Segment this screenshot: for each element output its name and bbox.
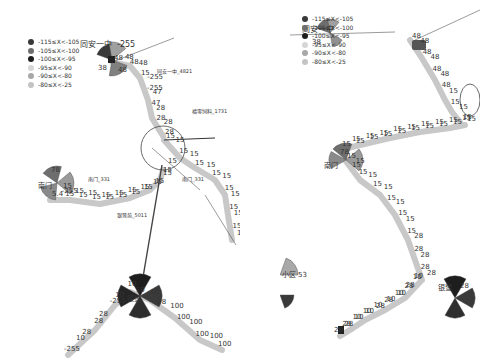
route-top[interactable] bbox=[410, 40, 460, 122]
site-label: 小区 bbox=[282, 270, 296, 279]
route-value: 15 bbox=[166, 132, 175, 140]
legend-label: -80≤X<-25 bbox=[38, 81, 72, 90]
route-value: 15 bbox=[359, 168, 368, 176]
legend-label: -105≤X<-100 bbox=[312, 24, 353, 33]
route-value: 48 bbox=[420, 37, 429, 45]
legend-item: -100≤X<-95 bbox=[302, 32, 353, 41]
legend-item: -90≤X<-80 bbox=[28, 72, 79, 81]
route-value: 28 bbox=[334, 326, 343, 334]
site-label: 南门 bbox=[324, 161, 338, 170]
route-value: 48 bbox=[431, 53, 440, 61]
legend-label: -100≤X<-95 bbox=[38, 55, 76, 64]
sector-value: 28 bbox=[460, 282, 469, 290]
legend-label: -105≤X<-100 bbox=[38, 47, 79, 56]
route-value: -255 bbox=[64, 345, 80, 353]
legend-label: -90≤X<-80 bbox=[38, 72, 72, 81]
route-value: 15 bbox=[131, 188, 140, 196]
legend-item: -115≤X<-105 bbox=[28, 38, 79, 47]
route-value: 15 bbox=[237, 229, 240, 237]
route-value: 28 bbox=[342, 320, 351, 328]
route-value: 28 bbox=[427, 269, 436, 277]
legend-item: -80≤X<-25 bbox=[302, 58, 353, 67]
route-value: 15 bbox=[212, 169, 221, 177]
route-value: 48 bbox=[440, 70, 449, 78]
route-value: 15 bbox=[65, 190, 74, 198]
route-value: 28 bbox=[156, 104, 165, 112]
legend-item: -95≤X<-90 bbox=[302, 41, 353, 50]
legend-swatch-icon bbox=[302, 16, 308, 22]
site-label: 银鹭 bbox=[438, 283, 452, 292]
route-value: 15 bbox=[118, 191, 127, 199]
route-value: 15 bbox=[373, 180, 382, 188]
route-value: 28 bbox=[414, 232, 423, 240]
route-value: 15 bbox=[459, 103, 468, 111]
route-value: 28 bbox=[421, 251, 430, 259]
sector-value: 38 bbox=[98, 64, 107, 72]
route-value: 100 bbox=[196, 330, 209, 338]
route-value: 15 bbox=[425, 122, 434, 130]
left-legend: -115≤X<-105 -105≤X<-100 -100≤X<-95 -95≤X… bbox=[28, 38, 79, 89]
site-label: 银鹭 bbox=[127, 294, 141, 303]
legend-label: -115≤X<-105 bbox=[38, 38, 79, 47]
legend-item: -80≤X<-25 bbox=[28, 81, 79, 90]
sector-xiaoqu-b[interactable] bbox=[280, 295, 294, 308]
route-value: 48 bbox=[114, 54, 123, 62]
route-value: 15 bbox=[176, 136, 185, 144]
link-label: 银鹭苑_5011 bbox=[117, 212, 147, 219]
route-value: 10 bbox=[136, 286, 145, 294]
route-value: -255 bbox=[147, 73, 163, 81]
route-value: 15 bbox=[144, 183, 153, 191]
route-value: 10 bbox=[115, 291, 124, 299]
route-value: 15 bbox=[406, 215, 415, 223]
route-value: 15 bbox=[449, 87, 458, 95]
route-value: 48 bbox=[130, 58, 139, 66]
route-value: 15 bbox=[155, 177, 164, 185]
route-value: 15 bbox=[79, 191, 88, 199]
route-value: 15 bbox=[384, 183, 393, 191]
route-value: 15 bbox=[179, 147, 188, 155]
legend-swatch-icon bbox=[302, 59, 308, 65]
site-value: -255 bbox=[117, 40, 135, 49]
route-value: 15 bbox=[231, 190, 240, 198]
link-label: 南门_331 bbox=[88, 176, 110, 183]
route-value: 15 bbox=[370, 133, 379, 141]
left-map-panel[interactable]: 3848同安一中-255同安一中_48217815南门南门_331南门_331福… bbox=[0, 0, 240, 364]
sector-value: 48 bbox=[118, 66, 127, 74]
route-value: 15 bbox=[168, 157, 177, 165]
route-value: 100 bbox=[218, 340, 231, 348]
route-value: 15 bbox=[195, 159, 204, 167]
legend-item: -105≤X<-100 bbox=[302, 24, 353, 33]
link-label: 南门_331 bbox=[182, 176, 204, 183]
route-value: 47 bbox=[153, 88, 162, 96]
legend-item: -115≤X<-105 bbox=[302, 15, 353, 24]
legend-swatch-icon bbox=[302, 42, 308, 48]
link-line-tongan-2 bbox=[415, 10, 480, 40]
route-value: 15 bbox=[411, 124, 420, 132]
site-label: 南门 bbox=[38, 181, 52, 190]
route-value: 15 bbox=[163, 166, 172, 174]
route-value: 10 bbox=[363, 307, 372, 315]
route-value: 15 bbox=[234, 209, 240, 217]
legend-swatch-icon bbox=[302, 25, 308, 31]
route-value: 100 bbox=[170, 302, 183, 310]
route-value: 15 bbox=[105, 193, 114, 201]
sector-value: 78 bbox=[51, 166, 60, 174]
legend-item: -105≤X<-100 bbox=[28, 47, 79, 56]
site-value: 53 bbox=[298, 271, 307, 279]
route-value: 15 bbox=[342, 140, 351, 148]
route-value: 15 bbox=[368, 171, 377, 179]
legend-label: -80≤X<-25 bbox=[312, 58, 346, 67]
route-value: 48 bbox=[139, 59, 148, 67]
route-value: 10 bbox=[395, 289, 404, 297]
route-value: 15 bbox=[206, 161, 215, 169]
route-value: 28 bbox=[82, 328, 91, 336]
route-value: 15 bbox=[222, 172, 231, 180]
route-value: 28 bbox=[164, 118, 173, 126]
route-value: 28 bbox=[157, 298, 166, 306]
legend-swatch-icon bbox=[302, 33, 308, 39]
route-value: 10 bbox=[352, 313, 361, 321]
route-value: 10 bbox=[374, 301, 383, 309]
route-value: 15 bbox=[356, 137, 365, 145]
right-map-panel[interactable]: 同安一中387815南门小区53银鹭2848484848484848151515… bbox=[280, 0, 480, 364]
legend-label: -95≤X<-90 bbox=[312, 41, 346, 50]
